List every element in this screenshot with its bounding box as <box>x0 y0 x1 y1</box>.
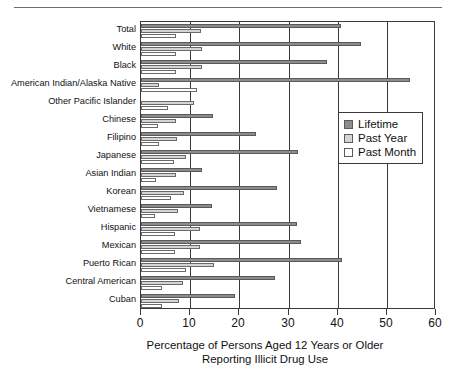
bar-pastmonth <box>141 214 155 218</box>
bar-pastmonth <box>141 106 168 110</box>
chart-figure: TotalWhiteBlackAmerican Indian/Alaska Na… <box>0 0 456 380</box>
legend-item: Past Month <box>344 145 416 159</box>
bar-pastyear <box>141 101 194 105</box>
bar-pastyear <box>141 173 176 177</box>
bar-pastyear <box>141 245 200 249</box>
category-label: Korean <box>0 186 136 196</box>
bar-lifetime <box>141 294 235 298</box>
category-label: Japanese <box>0 150 136 160</box>
bar-lifetime <box>141 60 327 64</box>
bar-pastmonth <box>141 142 159 146</box>
legend-label: Past Month <box>358 146 416 158</box>
bar-pastyear <box>141 227 200 231</box>
bar-pastmonth <box>141 70 176 74</box>
bar-lifetime <box>141 132 256 136</box>
tick-mark <box>189 309 190 315</box>
bar-pastyear <box>141 281 183 285</box>
category-label: Asian Indian <box>0 168 136 178</box>
x-axis-tick-labels: 0102030405060 <box>0 316 456 332</box>
legend-label: Lifetime <box>358 118 398 130</box>
legend-item: Past Year <box>344 131 416 145</box>
bar-pastmonth <box>141 160 174 164</box>
gridline-40 <box>338 22 339 308</box>
tick-label: 10 <box>169 316 209 330</box>
bar-pastmonth <box>141 34 176 38</box>
tick-mark <box>288 309 289 315</box>
category-label: American Indian/Alaska Native <box>0 78 136 88</box>
bar-lifetime <box>141 24 341 28</box>
bar-lifetime <box>141 42 361 46</box>
bar-pastyear <box>141 299 179 303</box>
bar-pastyear <box>141 137 177 141</box>
bar-pastyear <box>141 191 184 195</box>
bar-pastyear <box>141 65 202 69</box>
legend-swatch-icon <box>344 120 353 129</box>
x-axis-tick-marks <box>140 309 435 315</box>
chart-legend: LifetimePast YearPast Month <box>338 112 423 164</box>
bar-lifetime <box>141 150 298 154</box>
gridline-50 <box>387 22 388 308</box>
bar-lifetime <box>141 78 410 82</box>
x-axis-title: Percentage of Persons Aged 12 Years or O… <box>100 338 430 366</box>
bar-lifetime <box>141 168 202 172</box>
bar-pastyear <box>141 155 186 159</box>
bar-pastmonth <box>141 232 175 236</box>
bar-pastyear <box>141 119 176 123</box>
tick-label: 0 <box>120 316 160 330</box>
category-label: Other Pacific Islander <box>0 96 136 106</box>
gridline-30 <box>289 22 290 308</box>
bar-pastmonth <box>141 52 176 56</box>
tick-mark <box>386 309 387 315</box>
legend-label: Past Year <box>358 132 407 144</box>
category-label: Mexican <box>0 240 136 250</box>
bar-lifetime <box>141 114 213 118</box>
legend-swatch-icon <box>344 134 353 143</box>
bar-lifetime <box>141 258 342 262</box>
legend-swatch-icon <box>344 148 353 157</box>
category-axis-labels: TotalWhiteBlackAmerican Indian/Alaska Na… <box>0 21 136 309</box>
plot-area <box>140 21 435 309</box>
bar-lifetime <box>141 222 297 226</box>
bar-pastmonth <box>141 196 171 200</box>
bar-pastyear <box>141 209 178 213</box>
x-axis-title-line-1: Percentage of Persons Aged 12 Years or O… <box>100 338 430 352</box>
tick-mark <box>337 309 338 315</box>
category-label: Cuban <box>0 294 136 304</box>
category-label: Total <box>0 24 136 34</box>
category-label: Central American <box>0 276 136 286</box>
bar-pastmonth <box>141 268 186 272</box>
tick-label: 40 <box>317 316 357 330</box>
top-divider-rule <box>14 7 442 8</box>
bar-pastmonth <box>141 178 156 182</box>
bar-pastmonth <box>141 124 158 128</box>
gridline-20 <box>239 22 240 308</box>
category-label: Puerto Rican <box>0 258 136 268</box>
category-label: Chinese <box>0 114 136 124</box>
tick-label: 60 <box>415 316 455 330</box>
bar-lifetime <box>141 276 275 280</box>
bar-pastyear <box>141 29 201 33</box>
bar-lifetime <box>141 240 301 244</box>
bar-pastmonth <box>141 304 162 308</box>
legend-item: Lifetime <box>344 117 416 131</box>
bar-lifetime <box>141 186 277 190</box>
bar-pastmonth <box>141 250 175 254</box>
bar-pastyear <box>141 263 214 267</box>
tick-mark <box>238 309 239 315</box>
bar-lifetime <box>141 204 212 208</box>
tick-label: 50 <box>366 316 406 330</box>
category-label: Filipino <box>0 132 136 142</box>
category-label: Hispanic <box>0 222 136 232</box>
bar-pastmonth <box>141 286 162 290</box>
bar-pastyear <box>141 47 202 51</box>
bar-pastmonth <box>141 88 197 92</box>
category-label: Vietnamese <box>0 204 136 214</box>
tick-label: 20 <box>218 316 258 330</box>
bar-pastyear <box>141 83 159 87</box>
category-label: Black <box>0 60 136 70</box>
tick-mark <box>140 309 141 315</box>
x-axis-title-line-2: Reporting Illicit Drug Use <box>100 352 430 366</box>
tick-label: 30 <box>268 316 308 330</box>
tick-mark <box>435 309 436 315</box>
category-label: White <box>0 42 136 52</box>
